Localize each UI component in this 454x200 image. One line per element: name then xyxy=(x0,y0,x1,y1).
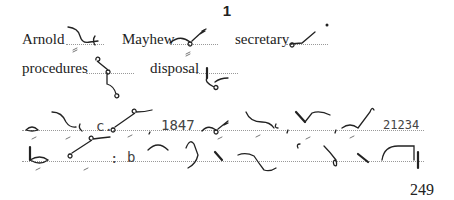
outline-disposal-tail xyxy=(206,78,228,90)
page-number: 249 xyxy=(410,181,434,199)
outline-secretary xyxy=(290,32,315,47)
outline-procedures xyxy=(96,57,119,98)
shorthand-outlines xyxy=(0,0,454,200)
outline-arnold xyxy=(68,27,98,45)
dot-mark xyxy=(326,24,329,27)
outline-mayhew xyxy=(170,29,206,46)
